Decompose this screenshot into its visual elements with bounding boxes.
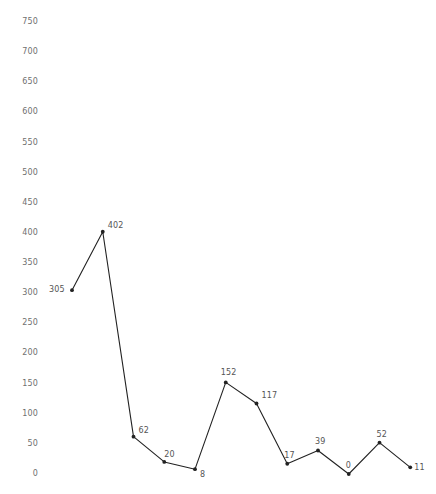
- data-point-label: 20: [164, 451, 175, 459]
- data-point-marker: [132, 435, 136, 439]
- series-line: [72, 232, 410, 474]
- data-point-marker: [408, 465, 412, 469]
- data-point-marker: [162, 460, 166, 464]
- data-point-marker: [378, 441, 382, 445]
- data-point-label: 305: [49, 286, 65, 294]
- data-point-marker: [193, 467, 197, 471]
- data-point-marker: [347, 472, 351, 476]
- data-point-marker: [101, 230, 105, 234]
- data-point-label: 17: [284, 452, 295, 460]
- data-point-marker: [285, 462, 289, 466]
- data-point-label: 52: [377, 431, 388, 439]
- data-point-label: 117: [262, 392, 278, 400]
- line-chart: 7507006506005505004504003503002502001501…: [0, 0, 436, 494]
- data-point-label: 0: [346, 462, 351, 470]
- data-point-label: 8: [200, 471, 205, 479]
- data-point-marker: [255, 402, 259, 406]
- data-point-label: 11: [414, 464, 425, 472]
- data-point-label: 152: [221, 369, 237, 377]
- data-point-label: 402: [108, 222, 124, 230]
- data-point-label: 39: [315, 438, 326, 446]
- data-point-marker: [70, 288, 74, 292]
- data-point-marker: [316, 449, 320, 453]
- series-plot-area: [0, 0, 436, 494]
- data-point-marker: [224, 380, 228, 384]
- data-point-label: 62: [139, 427, 150, 435]
